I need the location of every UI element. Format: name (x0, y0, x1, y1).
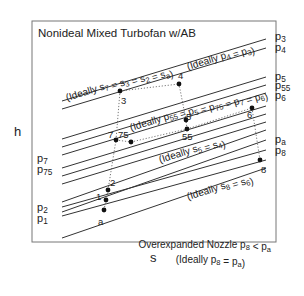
state-label-8: 8 (261, 164, 266, 175)
state-label-3: 3 (121, 95, 126, 106)
footnote: Overexpanded Nozzle p8 < pa (Ideally p8 … (138, 239, 271, 269)
footnote-line-2: (Ideally p8 = pa) (176, 254, 245, 269)
state-label-7: 7 (108, 129, 113, 140)
state-point-75 (129, 140, 134, 145)
state-label-75: 75 (118, 129, 129, 140)
diagram-title: Nonideal Mixed Turbofan w/AB (38, 27, 196, 39)
state-label-2: 2 (110, 177, 115, 188)
state-point-1 (104, 198, 109, 203)
state-point-a (102, 208, 107, 213)
hs-diagram: Nonideal Mixed Turbofan w/AB p7p75p2p1 p… (0, 0, 304, 296)
state-point-4 (177, 82, 182, 87)
state-label-4: 4 (178, 70, 183, 81)
state-label-a: a (98, 216, 104, 227)
state-label-6: 6 (247, 109, 252, 120)
state-label-55: 55 (182, 131, 193, 142)
state-point-8 (258, 158, 263, 163)
footnote-line-1: Overexpanded Nozzle p8 < pa (138, 239, 271, 254)
state-label-1: 1 (96, 191, 101, 202)
state-point-2 (106, 188, 111, 193)
state-label-5: 5 (186, 111, 191, 122)
right-pressure-labels: p3p4p5p55p6pap8 (275, 30, 291, 158)
y-axis-label: h (14, 124, 21, 139)
state-point-3 (118, 89, 123, 94)
x-axis-label: s (150, 250, 157, 265)
